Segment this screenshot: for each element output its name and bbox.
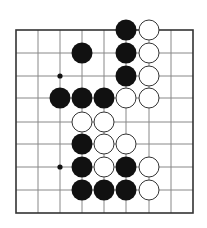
- black-stone: [116, 43, 137, 64]
- black-stone: [94, 88, 115, 109]
- black-stone: [116, 157, 137, 178]
- white-stone: [139, 157, 159, 177]
- white-stone: [94, 112, 114, 132]
- go-board: [0, 0, 207, 228]
- white-stone: [139, 20, 159, 40]
- white-stone: [116, 134, 136, 154]
- white-stone: [116, 88, 136, 108]
- black-stone: [94, 180, 115, 201]
- white-stone: [139, 43, 159, 63]
- black-stone: [72, 134, 93, 155]
- black-stone: [72, 88, 93, 109]
- black-stone: [72, 43, 93, 64]
- black-stone: [116, 66, 137, 87]
- star-point: [57, 73, 62, 78]
- white-stone: [139, 88, 159, 108]
- white-stone: [139, 66, 159, 86]
- white-stone: [94, 134, 114, 154]
- white-stone: [94, 157, 114, 177]
- star-point: [57, 164, 62, 169]
- black-stone: [116, 180, 137, 201]
- black-stone: [72, 157, 93, 178]
- black-stone: [50, 88, 71, 109]
- white-stone: [139, 180, 159, 200]
- black-stone: [72, 180, 93, 201]
- black-stone: [116, 20, 137, 41]
- white-stone: [72, 112, 92, 132]
